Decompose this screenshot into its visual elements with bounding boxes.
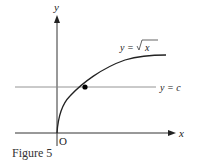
figure-diagram: y x O y = c y = x [0, 0, 198, 167]
x-axis-label: x [178, 127, 184, 139]
intersection-point [82, 84, 87, 89]
svg-text:x: x [144, 42, 150, 53]
y-axis-label: y [53, 1, 59, 13]
svg-text:y =: y = [119, 42, 134, 53]
curve-sqrt-x [57, 55, 166, 133]
origin-label: O [59, 135, 67, 147]
line-label: y = c [159, 82, 181, 93]
curve-label: y = x [119, 40, 158, 53]
y-axis-arrow-icon [54, 15, 60, 23]
x-axis-arrow-icon [168, 130, 176, 136]
figure-caption: Figure 5 [12, 146, 52, 161]
